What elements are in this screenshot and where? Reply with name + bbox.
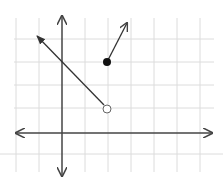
ray-line — [107, 23, 127, 62]
increasing-ray — [103, 23, 127, 66]
axes — [16, 16, 212, 176]
closed-endpoint-icon — [103, 58, 111, 66]
grid — [0, 18, 223, 172]
decreasing-ray — [37, 36, 111, 113]
ray-line — [37, 36, 104, 105]
piecewise-graph — [0, 0, 223, 188]
open-endpoint-icon — [103, 105, 111, 113]
